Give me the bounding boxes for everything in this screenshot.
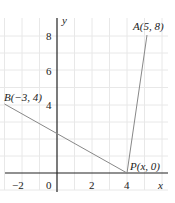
point-p-label: P(x, 0): [129, 160, 160, 173]
y-tick-6: 6: [46, 65, 52, 77]
y-tick-4: 4: [46, 99, 52, 111]
x-axis-label: x: [157, 179, 163, 191]
coordinate-diagram: y x 8 6 4 −2 0 2 4 A(5, 8) B(−3, 4) P(x,…: [0, 0, 175, 203]
x-tick-4: 4: [124, 179, 130, 191]
point-a-label: A(5, 8): [132, 20, 164, 33]
y-axis-label: y: [61, 14, 67, 26]
x-tick-2: 2: [89, 179, 95, 191]
x-tick-0: 0: [46, 179, 52, 191]
x-tick-neg2: −2: [12, 179, 24, 191]
y-tick-8: 8: [46, 30, 52, 42]
point-b-label: B(−3, 4): [4, 91, 42, 104]
